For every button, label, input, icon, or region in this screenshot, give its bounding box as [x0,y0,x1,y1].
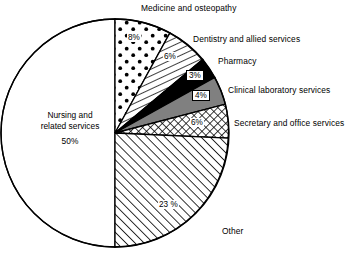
label-secretary-and-office-services: Secretary and office services [234,118,344,128]
percent-pharmacy: 3% [186,70,204,81]
label-medicine-and-osteopathy: Medicine and osteopathy [141,3,236,13]
label-nursing-line2: related services [22,121,118,132]
percent-nursing: 50% [22,136,118,147]
percent-clinical-laboratory: 4% [192,90,210,101]
pie-slice-nursing[interactable] [1,19,115,247]
label-dentistry-and-allied-services: Dentistry and allied services [193,34,300,44]
percent-other: 23 % [158,200,179,209]
pie-chart-figure: Medicine and osteopathy Dentistry and al… [0,0,347,256]
percent-secretary: 6% [190,118,204,127]
label-nursing-line1: Nursing and [22,110,118,121]
label-pharmacy: Pharmacy [218,56,257,66]
percent-medicine: 8% [127,33,141,42]
label-clinical-laboratory-services: Clinical laboratory services [228,85,330,95]
pie-slice-other[interactable] [115,133,228,247]
label-other: Other [222,226,243,236]
percent-dentistry: 6% [163,52,177,61]
